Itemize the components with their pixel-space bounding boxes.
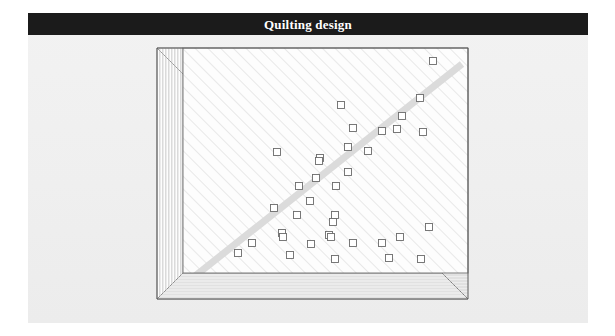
patch-square [386, 255, 393, 262]
patch-square [294, 212, 301, 219]
patch-square [332, 256, 339, 263]
patch-square [345, 144, 352, 151]
page-title: Quilting design [264, 18, 352, 31]
patch-square [365, 148, 372, 155]
patch-square [333, 183, 340, 190]
left-border-strip [157, 48, 183, 299]
patch-square [417, 95, 424, 102]
patch-square [332, 212, 339, 219]
patch-square [287, 252, 294, 259]
quilt-diagram [150, 42, 475, 304]
patch-square [330, 219, 337, 226]
patch-square [397, 234, 404, 241]
patch-square [379, 128, 386, 135]
quilt-diagram-svg [150, 42, 475, 304]
patch-square [280, 234, 287, 241]
patch-square [426, 224, 433, 231]
patch-square [235, 250, 242, 257]
patch-square [274, 149, 281, 156]
patch-square [296, 183, 303, 190]
page-root: Quilting design [0, 0, 615, 336]
quilt-center-field [183, 48, 468, 280]
title-bar: Quilting design [28, 13, 588, 35]
patch-square [307, 198, 314, 205]
patch-square [394, 126, 401, 133]
patch-square [249, 240, 256, 247]
patch-square [399, 113, 406, 120]
patch-square [271, 205, 278, 212]
patch-square [350, 125, 357, 132]
patch-square [379, 240, 386, 247]
patch-square [430, 58, 437, 65]
patch-square [418, 256, 425, 263]
patch-square [328, 234, 335, 241]
patch-square [345, 169, 352, 176]
patch-square [313, 175, 320, 182]
patch-square [308, 241, 315, 248]
patch-square [350, 240, 357, 247]
bottom-border-strip [157, 273, 468, 299]
patch-square [420, 129, 427, 136]
patch-square [338, 102, 345, 109]
patch-square [316, 158, 323, 165]
